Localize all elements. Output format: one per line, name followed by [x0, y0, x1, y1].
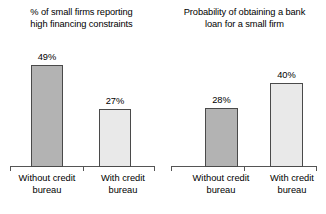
bar-value-without-credit-bureau: 49% [21, 52, 73, 63]
plot-area: 28% 40% [163, 40, 326, 167]
bar-with-credit-bureau [99, 109, 131, 167]
two-panel-bar-chart-figure: % of small firms reporting high financin… [0, 0, 326, 214]
bar-without-credit-bureau [205, 108, 238, 167]
category-label-line-2: bureau [179, 185, 263, 197]
panel-title: % of small firms reporting high financin… [0, 6, 163, 30]
category-label-line-1: With credit [258, 173, 326, 185]
category-label-line-2: bureau [5, 185, 89, 197]
category-label-with-credit-bureau: With credit bureau [85, 173, 161, 196]
panel-financing-constraints: % of small firms reporting high financin… [0, 0, 163, 214]
category-label-without-credit-bureau: Without credit bureau [179, 173, 263, 196]
panel-title-line-2: high financing constraints [6, 18, 157, 30]
category-label-line-1: Without credit [5, 173, 89, 185]
category-label-line-2: bureau [85, 185, 161, 197]
bar-value-with-credit-bureau: 40% [260, 70, 313, 81]
panel-title-line-2: loan for a small firm [169, 18, 320, 30]
category-label-line-2: bureau [258, 185, 326, 197]
axis-tick-right [316, 167, 317, 171]
axis-tick-right [154, 167, 155, 171]
panel-title: Probability of obtaining a bank loan for… [163, 6, 326, 30]
axis-tick-left [171, 167, 172, 171]
bar-without-credit-bureau [31, 65, 63, 167]
category-label-with-credit-bureau: With credit bureau [258, 173, 326, 196]
bar-value-with-credit-bureau: 27% [89, 96, 141, 107]
panel-title-line-1: % of small firms reporting [6, 6, 157, 18]
bar-value-without-credit-bureau: 28% [195, 95, 248, 106]
panel-title-line-1: Probability of obtaining a bank [169, 6, 320, 18]
panel-bank-loan-probability: Probability of obtaining a bank loan for… [163, 0, 326, 214]
axis-tick-middle [244, 167, 245, 171]
category-label-line-1: With credit [85, 173, 161, 185]
category-label-without-credit-bureau: Without credit bureau [5, 173, 89, 196]
bar-with-credit-bureau [270, 83, 303, 167]
plot-area: 49% 27% [0, 40, 163, 167]
category-label-line-1: Without credit [179, 173, 263, 185]
axis-tick-left [10, 167, 11, 171]
axis-tick-middle [83, 167, 84, 171]
